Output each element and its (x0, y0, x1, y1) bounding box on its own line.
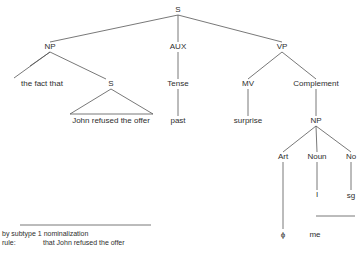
complement-node: Complement (293, 79, 338, 89)
noun-value-node: I (316, 190, 318, 200)
the-fact-that-node: the fact that (21, 79, 63, 89)
tense-node: Tense (167, 79, 188, 89)
complement-np-node: NP (310, 116, 321, 126)
root-s-node: S (175, 5, 180, 15)
mv-node: MV (242, 79, 254, 89)
tree-edges (0, 0, 359, 255)
vp-node: VP (277, 42, 288, 52)
no-value-node: sg (347, 191, 355, 201)
footnote-rule-label: rule: (2, 238, 16, 247)
aux-node: AUX (170, 42, 186, 52)
art-value-node: ϕ (281, 230, 285, 240)
art-node: Art (278, 152, 288, 162)
footnote-rule-value: that John refused the offer (43, 238, 125, 247)
surprise-node: surprise (234, 116, 262, 126)
footnote-line1: by subtype 1 nominalization (2, 229, 88, 238)
embedded-s-node: S (108, 79, 113, 89)
past-node: past (170, 116, 185, 126)
np-node: NP (44, 42, 55, 52)
no-node: No (346, 152, 356, 162)
noun-node: Noun (307, 152, 326, 162)
embedded-sentence-text: John refused the offer (72, 116, 150, 126)
pronoun-form-node: me (309, 230, 320, 240)
